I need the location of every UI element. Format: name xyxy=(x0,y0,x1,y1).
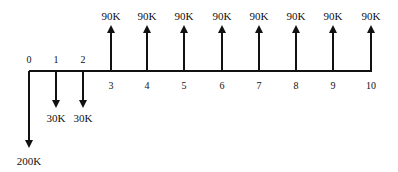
period-label: 1 xyxy=(54,54,59,65)
cash-flow-amount: 30K xyxy=(47,112,66,124)
cash-inflow-arrow: 90K xyxy=(138,10,157,71)
period-label: 5 xyxy=(182,80,187,91)
cash-flow-diagram: 012345678910 200K30K30K90K90K90K90K90K90… xyxy=(0,0,398,172)
cash-flow-amount: 200K xyxy=(17,155,42,167)
cash-inflow-arrow: 90K xyxy=(362,10,381,71)
period-label: 4 xyxy=(145,80,150,91)
period-label: 6 xyxy=(220,80,225,91)
cash-flow-amount: 90K xyxy=(250,10,269,22)
arrow-up-icon xyxy=(367,25,375,33)
cash-flow-amount: 90K xyxy=(102,10,121,22)
period-label: 2 xyxy=(81,54,86,65)
cash-outflow-arrow: 30K xyxy=(74,71,93,124)
cash-inflow-arrow: 90K xyxy=(102,10,121,71)
cash-inflow-arrow: 90K xyxy=(287,10,306,71)
arrow-up-icon xyxy=(107,25,115,33)
cash-inflow-arrow: 90K xyxy=(175,10,194,71)
cash-inflow-arrow: 90K xyxy=(250,10,269,71)
arrow-down-icon xyxy=(52,100,60,108)
period-label: 7 xyxy=(257,80,262,91)
period-label: 0 xyxy=(27,54,32,65)
arrow-down-icon xyxy=(25,140,33,148)
cash-flow-amount: 90K xyxy=(287,10,306,22)
cash-flow-amount: 30K xyxy=(74,112,93,124)
arrow-up-icon xyxy=(218,25,226,33)
cash-inflow-arrow: 90K xyxy=(324,10,343,71)
cash-inflow-arrow: 90K xyxy=(213,10,232,71)
arrow-up-icon xyxy=(255,25,263,33)
cash-flow-arrows: 200K30K30K90K90K90K90K90K90K90K90K xyxy=(17,10,381,167)
arrow-up-icon xyxy=(143,25,151,33)
cash-flow-amount: 90K xyxy=(324,10,343,22)
cash-flow-amount: 90K xyxy=(175,10,194,22)
cash-flow-amount: 90K xyxy=(138,10,157,22)
arrow-down-icon xyxy=(79,100,87,108)
period-labels: 012345678910 xyxy=(27,54,377,91)
arrow-up-icon xyxy=(329,25,337,33)
cash-outflow-arrow: 200K xyxy=(17,71,42,167)
period-label: 9 xyxy=(331,80,336,91)
period-label: 8 xyxy=(294,80,299,91)
cash-outflow-arrow: 30K xyxy=(47,71,66,124)
arrow-up-icon xyxy=(180,25,188,33)
cash-flow-amount: 90K xyxy=(362,10,381,22)
arrow-up-icon xyxy=(292,25,300,33)
period-label: 3 xyxy=(109,80,114,91)
period-label: 10 xyxy=(366,80,376,91)
cash-flow-amount: 90K xyxy=(213,10,232,22)
